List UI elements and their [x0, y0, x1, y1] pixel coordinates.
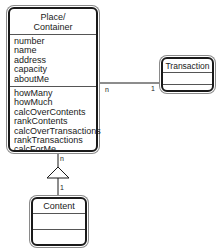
triangle-icon — [47, 167, 69, 178]
class-name-line-1: Place/ — [10, 12, 96, 22]
multiplicity-label: 1 — [60, 184, 64, 192]
operations-section — [33, 230, 85, 245]
class-content[interactable]: Content — [31, 197, 87, 246]
attributes-section — [33, 214, 85, 230]
operations-section: howMany howMuch calcOverContents rankCon… — [10, 87, 96, 156]
operation: calcForMe — [14, 145, 92, 154]
attributes-section: number name address capacity aboutMe — [10, 35, 96, 87]
class-transaction[interactable]: Transaction — [161, 57, 214, 92]
attribute: aboutMe — [14, 75, 92, 84]
multiplicity-label: 1 — [151, 85, 155, 93]
class-name: Content — [33, 199, 85, 214]
attributes-section — [163, 73, 212, 85]
operations-section — [163, 85, 212, 96]
multiplicity-label: n — [105, 86, 109, 94]
class-name: Place/ Container — [10, 9, 96, 35]
multiplicity-label: n — [60, 155, 64, 163]
class-name-line-2: Container — [10, 22, 96, 32]
class-name: Transaction — [163, 59, 212, 73]
class-place-container[interactable]: Place/ Container number name address cap… — [8, 7, 98, 152]
